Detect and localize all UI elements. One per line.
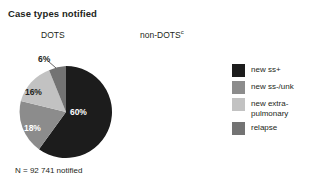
legend-swatch-icon-relapse [232,122,245,135]
legend-item-relapse: relapse [232,122,312,135]
figure-case-types-notified: Case types notified DOTS non-DOTSc 60% 1… [0,0,315,187]
legend-item-new-extra-pulmonary: new extra- pulmonary [232,98,312,118]
legend-swatch-icon-new-ss-plus [232,64,245,77]
pie-slice-label-relapse: 6% [38,54,50,64]
legend-label-new-extra-pulmonary: new extra- pulmonary [251,98,288,118]
pie-chart-svg [14,60,118,164]
legend-swatch-icon-new-extra-pulmonary [232,98,245,111]
panel-heading-non-dots-text: non-DOTS [140,30,181,40]
legend-label-new-ss-plus: new ss+ [251,64,281,75]
legend-item-new-ss-minus-unk: new ss-/unk [232,81,312,94]
pie-slice-label-new-extra-pulmonary: 16% [25,87,42,97]
legend-label-relapse: relapse [251,122,277,133]
footnote-marker-c: c [181,29,184,35]
pie-slice-label-new-ss-minus-unk: 18% [24,123,41,133]
pie-total-note: N = 92 741 notified [15,166,82,175]
panel-heading-dots: DOTS [41,30,65,40]
panel-heading-non-dots: non-DOTSc [140,30,184,40]
legend-item-new-ss-plus: new ss+ [232,64,312,77]
legend: new ss+ new ss-/unk new extra- pulmonary… [232,64,312,139]
legend-label-new-ss-minus-unk: new ss-/unk [251,81,294,92]
page-title: Case types notified [8,8,97,19]
legend-swatch-icon-new-ss-minus-unk [232,81,245,94]
pie-chart-dots [14,60,118,164]
pie-slice-label-new-ss-plus: 60% [70,107,87,117]
